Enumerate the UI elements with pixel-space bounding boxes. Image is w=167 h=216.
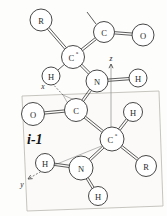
atom-h-amide-label: H: [135, 74, 141, 84]
atom-n-amide-label: N: [94, 77, 100, 87]
atom-h-alpha-upper: H: [42, 67, 60, 85]
bond-c-o-upper-line-a: [114, 34, 132, 35]
bond-calpha-h-upper-line: [58, 64, 65, 70]
atom-o-carbonyl-label: O: [30, 110, 36, 120]
atom-c-alpha-upper-label: C: [69, 53, 75, 63]
atom-h-alpha-lower-label: H: [130, 108, 136, 118]
atom-n-amine-label: N: [78, 164, 84, 174]
atom-h-alpha-lower: H: [124, 103, 143, 122]
atom-h-amide: H: [129, 69, 147, 87]
atom-h-amine-left-label: H: [42, 159, 48, 169]
atom-r-lower-label: R: [143, 162, 149, 172]
axis-label-y: y: [19, 180, 24, 189]
diagram-canvas: RCOCaHNHOCCaHRNHH i-1 xyz: [0, 0, 167, 216]
bond-r-calpha-upper-line-b: [49, 27, 67, 48]
bond-r-calpha-upper: [47, 27, 67, 49]
axis-label-z: z: [109, 54, 113, 63]
atom-c-alpha-lower: Ca: [100, 127, 124, 151]
atom-o-upper: O: [132, 24, 154, 46]
atom-c-carbonyl-upper: C: [94, 22, 115, 43]
atom-r-upper-label: R: [38, 16, 44, 26]
atom-c-carbonyl-label: C: [73, 106, 79, 116]
bond-calpha-n-upper: [80, 64, 90, 74]
bond-stub-next-residue: [87, 12, 96, 24]
atom-r-upper: R: [30, 9, 52, 31]
bond-calpha-c-upper-line-b: [81, 37, 95, 49]
axis-label-x: x: [40, 82, 45, 91]
bond-calpha-c-upper: [81, 37, 97, 50]
bond-c-o-upper-line-b: [114, 32, 132, 33]
atom-c-alpha-upper: Ca: [62, 46, 85, 69]
bond-r-calpha-upper-line-a: [47, 29, 65, 50]
atom-h-alpha-upper-label: H: [48, 72, 54, 82]
atom-c-carbonyl-upper-label: C: [101, 28, 107, 38]
atom-h-amine-left: H: [36, 154, 55, 173]
bond-c-o-upper: [114, 32, 133, 36]
atom-o-upper-label: O: [140, 31, 146, 41]
atom-h-amine-bottom: H: [89, 187, 108, 206]
molecular-diagram: RCOCaHNHOCCaHRNHH i-1 xyz: [0, 0, 167, 216]
residue-index-label: i-1: [27, 132, 43, 147]
atom-o-carbonyl: O: [22, 103, 45, 126]
atom-c-alpha-lower-label: C: [108, 135, 114, 145]
bond-calpha-h-upper: [58, 64, 65, 70]
atom-n-amide: N: [86, 70, 108, 92]
atom-c-carbonyl: C: [65, 99, 88, 122]
atom-n-amine: N: [69, 156, 93, 180]
atom-h-amine-bottom-label: H: [95, 192, 101, 202]
atom-r-lower: R: [136, 156, 157, 177]
bond-calpha-c-upper-line-a: [82, 39, 96, 51]
